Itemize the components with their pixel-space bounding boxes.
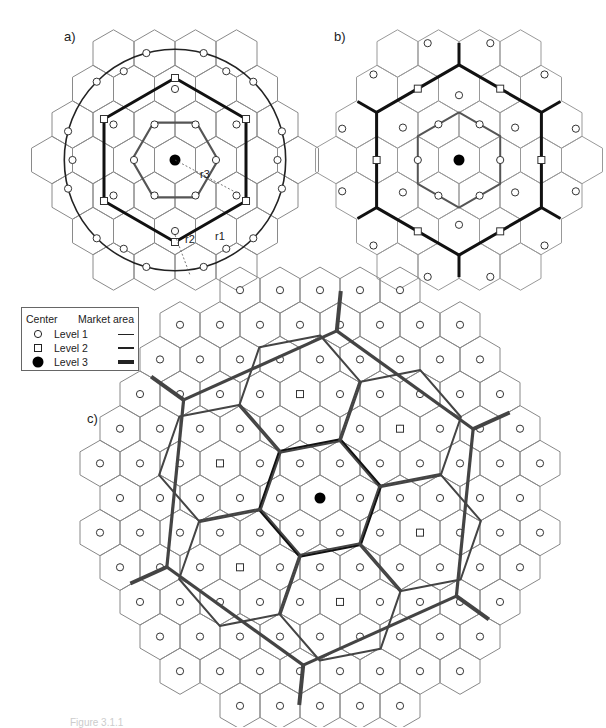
medium-line-icon bbox=[118, 347, 134, 349]
legend-center-header: Center bbox=[26, 313, 58, 325]
panel-a-label: a) bbox=[64, 29, 76, 44]
filled-circle-icon bbox=[32, 356, 44, 368]
svg-text:r2: r2 bbox=[185, 233, 195, 245]
legend-row-level-3: Level 3 bbox=[22, 355, 138, 369]
panel-c-label: c) bbox=[87, 411, 98, 426]
open-circle-icon bbox=[32, 328, 44, 340]
thin-line-icon bbox=[118, 334, 134, 335]
thick-line-icon bbox=[118, 360, 134, 364]
legend-row-level-1: Level 1 bbox=[22, 327, 138, 341]
svg-text:r1: r1 bbox=[215, 230, 225, 242]
open-square-icon bbox=[32, 342, 44, 354]
legend-row-level-2: Level 2 bbox=[22, 341, 138, 355]
panel-a-diagram: r3r2r1 bbox=[32, 30, 319, 290]
panel-b-label: b) bbox=[334, 29, 346, 44]
panel-b-diagram bbox=[316, 30, 603, 290]
legend-label: Level 3 bbox=[54, 356, 88, 368]
legend: Center Market area Level 1 Level 2 Level… bbox=[21, 307, 139, 371]
legend-label: Level 1 bbox=[54, 328, 88, 340]
svg-text:r3: r3 bbox=[200, 168, 210, 180]
legend-market-header: Market area bbox=[78, 313, 134, 325]
legend-label: Level 2 bbox=[54, 342, 88, 354]
panel-c-diagram bbox=[80, 267, 560, 727]
figure-caption: Figure 3.1.1 bbox=[70, 717, 123, 728]
